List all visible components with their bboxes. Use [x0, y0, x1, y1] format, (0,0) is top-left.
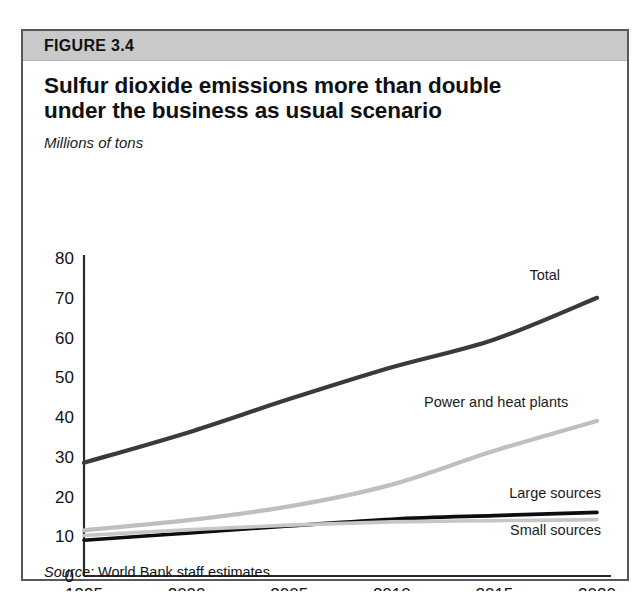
x-axis-tick-label: 2010 — [373, 585, 411, 591]
chart-title: Sulfur dioxide emissions more than doubl… — [44, 73, 606, 123]
y-axis-tick-label: 50 — [55, 368, 74, 387]
x-axis-tick-label: 2015 — [475, 585, 513, 591]
y-axis-tick-label: 10 — [55, 527, 74, 546]
chart-title-line-2: under the business as usual scenario — [44, 98, 606, 123]
x-axis-tick-label: 2020 — [578, 585, 616, 591]
source-note: Source: World Bank staff estimates. — [44, 564, 274, 580]
clipped-top-text — [60, 0, 530, 7]
source-text: World Bank staff estimates. — [94, 564, 274, 580]
source-keyword: Source: — [44, 564, 94, 580]
y-axis-tick-label: 60 — [55, 329, 74, 348]
y-axis-tick-label: 70 — [55, 289, 74, 308]
series-label: Small sources — [510, 522, 601, 538]
series-line — [84, 512, 597, 540]
x-axis-tick-label: 1995 — [65, 585, 103, 591]
chart-title-line-1: Sulfur dioxide emissions more than doubl… — [44, 73, 501, 98]
y-axis-tick-label: 30 — [55, 448, 74, 467]
series-line — [84, 520, 597, 536]
figure-body: Sulfur dioxide emissions more than doubl… — [23, 73, 627, 591]
figure-number-label: FIGURE 3.4 — [44, 37, 134, 55]
x-axis-tick-label: 2000 — [168, 585, 206, 591]
series-label: Total — [529, 267, 560, 283]
figure-header-band: FIGURE 3.4 — [23, 31, 627, 61]
series-label: Large sources — [509, 485, 601, 501]
y-axis-tick-label: 40 — [55, 408, 74, 427]
figure-container: FIGURE 3.4 Sulfur dioxide emissions more… — [21, 29, 629, 581]
series-line — [84, 298, 597, 463]
series-line — [84, 421, 597, 530]
y-axis-tick-label: 80 — [55, 249, 74, 268]
y-axis-units-caption: Millions of tons — [44, 134, 606, 151]
x-axis-tick-label: 2005 — [270, 585, 308, 591]
y-axis-tick-label: 20 — [55, 488, 74, 507]
series-label: Power and heat plants — [424, 394, 568, 410]
